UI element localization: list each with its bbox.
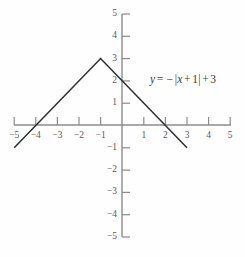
x-tick-label: 1: [141, 131, 146, 141]
x-tick-label: −3: [52, 131, 62, 141]
y-tick-label: 3: [103, 54, 117, 64]
graph-figure: −5 −4 −3 −2 −1 1 2 3 4 5 5 4 3 2 1 −1 −2…: [0, 0, 245, 257]
x-tick-label: −5: [9, 131, 19, 141]
y-tick-label: −1: [100, 143, 117, 153]
y-tick-label: 5: [103, 9, 117, 19]
equation-annotation: y=−|x+1|+3: [150, 73, 216, 85]
x-tick-label: −4: [31, 131, 41, 141]
y-tick-label: −4: [100, 210, 117, 220]
x-tick-label: 3: [185, 131, 190, 141]
x-tick-label: 2: [163, 131, 168, 141]
x-tick-label: 5: [228, 131, 233, 141]
y-tick-label: 4: [103, 32, 117, 42]
y-tick-label: −3: [100, 188, 117, 198]
equation-negative: −: [165, 73, 175, 85]
x-tick-label: −1: [96, 131, 106, 141]
x-tick-label: 4: [206, 131, 211, 141]
y-tick-label: −2: [100, 165, 117, 175]
equation-equals: =: [155, 73, 165, 85]
y-tick-label: 2: [103, 76, 117, 86]
equation-x: x: [177, 73, 182, 85]
y-tick-label: 1: [103, 98, 117, 108]
coordinate-plane: [0, 0, 245, 257]
equation-three: 3: [210, 73, 216, 85]
x-tick-label: −2: [74, 131, 84, 141]
equation-plus-inner: +: [183, 73, 193, 85]
equation-plus-outer: +: [201, 73, 211, 85]
y-tick-label: −5: [100, 232, 117, 242]
